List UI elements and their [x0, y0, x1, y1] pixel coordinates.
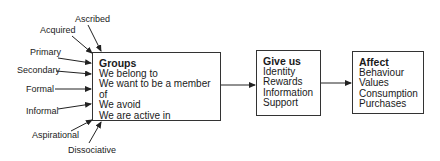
give-us-line: Support — [263, 98, 314, 109]
affect-title: Affect — [359, 57, 417, 68]
groups-line: We want to be a member of — [99, 79, 214, 100]
affect-line: Values — [359, 78, 417, 89]
groups-title: Groups — [99, 58, 214, 69]
label-dissociative: Dissociative — [68, 145, 116, 155]
give-us-box: Give us Identity Rewards Information Sup… — [256, 50, 321, 116]
label-formal: Formal — [26, 84, 54, 94]
groups-box: Groups We belong to We want to be a memb… — [92, 52, 221, 121]
label-primary: Primary — [30, 47, 61, 57]
give-us-title: Give us — [263, 56, 314, 67]
groups-line: We avoid — [99, 100, 214, 111]
affect-box: Affect Behaviour Values Consumption Purc… — [352, 51, 424, 114]
label-acquired: Acquired — [40, 25, 76, 35]
groups-line: We are active in — [99, 111, 214, 122]
label-ascribed: Ascribed — [75, 14, 110, 24]
label-aspirational: Aspirational — [32, 130, 79, 140]
affect-line: Purchases — [359, 99, 417, 110]
label-informal: Informal — [26, 106, 59, 116]
give-us-line: Rewards — [263, 77, 314, 88]
label-secondary: Secondary — [17, 65, 60, 75]
